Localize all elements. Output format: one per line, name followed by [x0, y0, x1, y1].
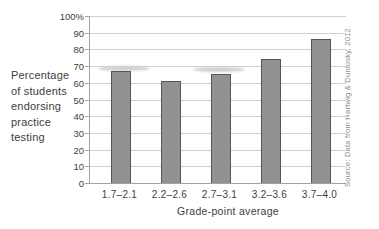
gridline	[90, 66, 346, 67]
y-tick-mark	[85, 33, 89, 34]
y-tick-mark	[85, 166, 89, 167]
source-citation: Source: Data from Hartwig & Dunlosky, 20…	[343, 26, 353, 187]
y-tick-label: 100%	[0, 12, 84, 22]
bar-chart-figure: Percentageof studentsendorsingpracticete…	[0, 0, 379, 229]
y-tick-mark	[85, 133, 89, 134]
y-tick-mark	[85, 66, 89, 67]
y-tick-mark	[85, 150, 89, 151]
x-tick-label: 2.2–2.6	[142, 189, 198, 200]
x-axis-title: Grade-point average	[89, 205, 345, 217]
y-tick-mark	[85, 116, 89, 117]
bar-3.7–4.0	[311, 39, 331, 183]
x-tick-label: 3.2–3.6	[242, 189, 298, 200]
y-tick-mark	[85, 16, 89, 17]
gridline	[90, 16, 346, 17]
x-tick-label: 1.7–2.1	[92, 189, 148, 200]
y-tick-label: 50	[0, 96, 84, 106]
y-tick-label: 0	[0, 179, 84, 189]
x-axis-tick-labels: 1.7–2.12.2–2.62.7–3.13.2–3.63.7–4.0	[89, 189, 345, 202]
bar-1.7–2.1	[111, 71, 131, 183]
x-tick-label: 2.7–3.1	[192, 189, 248, 200]
gridline	[90, 33, 346, 34]
y-tick-label: 90	[0, 29, 84, 39]
y-tick-label: 80	[0, 45, 84, 55]
y-tick-label: 10	[0, 162, 84, 172]
bar-2.7–3.1	[211, 74, 231, 183]
plot-area	[89, 16, 346, 184]
bar-3.2–3.6	[261, 59, 281, 183]
y-tick-mark	[85, 183, 89, 184]
bar-2.2–2.6	[161, 81, 181, 183]
y-tick-label: 70	[0, 62, 84, 72]
y-axis-ticks: 0102030405060708090100%	[0, 16, 84, 183]
scan-smudge-artifact	[193, 67, 245, 72]
y-tick-label: 60	[0, 79, 84, 89]
y-tick-label: 20	[0, 146, 84, 156]
gridline	[90, 49, 346, 50]
y-tick-label: 30	[0, 129, 84, 139]
y-tick-mark	[85, 83, 89, 84]
y-tick-label: 40	[0, 112, 84, 122]
x-tick-label: 3.7–4.0	[292, 189, 348, 200]
y-tick-mark	[85, 100, 89, 101]
y-tick-mark	[85, 49, 89, 50]
